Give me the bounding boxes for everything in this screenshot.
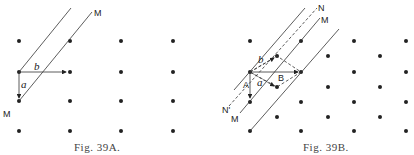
lattice-point	[17, 129, 21, 133]
lattice-points-39b	[248, 39, 408, 133]
lattice-point	[352, 100, 356, 104]
label-b: b	[34, 60, 40, 72]
lattice-point	[326, 54, 330, 58]
lattice-point	[171, 70, 175, 74]
line-n	[229, 8, 317, 106]
figure-39a: b a M M Fig. 39A.	[3, 8, 175, 153]
line-m	[240, 18, 320, 113]
lattice-point	[275, 85, 279, 89]
lattice-point	[171, 129, 175, 133]
lattice-point	[326, 85, 330, 89]
lattice-point	[119, 129, 123, 133]
label-a: a	[257, 76, 263, 88]
line-m-upper	[19, 8, 71, 72]
lattice-point	[352, 39, 356, 43]
figure-39b: b a A B N M N' M Fig. 39B.	[222, 3, 408, 153]
lattice-point	[299, 129, 303, 133]
lattice-point	[17, 39, 21, 43]
label-B: B	[278, 73, 284, 83]
caption-39b: Fig. 39B.	[303, 141, 349, 153]
lattice-point	[119, 39, 123, 43]
lattice-point	[352, 129, 356, 133]
label-m-top: M	[321, 15, 329, 25]
lattice-point	[378, 54, 382, 58]
label-m-bottom: M	[3, 109, 11, 119]
label-a: a	[21, 78, 27, 90]
label-n-bottom: N'	[222, 105, 230, 115]
lattice-point	[378, 85, 382, 89]
label-b: b	[258, 53, 264, 65]
caption-39a: Fig. 39A.	[74, 141, 120, 153]
lattice-point	[404, 70, 408, 74]
lattice-point	[171, 39, 175, 43]
lattice-point	[404, 39, 408, 43]
lattice-point	[68, 129, 72, 133]
lattice-point	[299, 100, 303, 104]
lattice-point	[326, 115, 330, 119]
label-m-top: M	[94, 8, 102, 18]
lattice-point	[119, 70, 123, 74]
line-m-lower	[19, 12, 92, 101]
lattice-point	[68, 70, 72, 74]
label-n-top: N	[318, 3, 325, 13]
diagram-canvas: b a M M Fig. 39A. b a A B N M N' M Fig. …	[0, 0, 414, 155]
label-A: A	[243, 80, 249, 90]
lattice-point	[378, 115, 382, 119]
lattice-point	[352, 70, 356, 74]
lattice-point	[248, 39, 252, 43]
lattice-points-39a	[17, 39, 175, 133]
lattice-point	[119, 99, 123, 103]
lattice-point	[68, 99, 72, 103]
lattice-point	[171, 99, 175, 103]
label-m-bottom: M	[231, 114, 239, 124]
lattice-point	[404, 100, 408, 104]
lattice-point	[404, 129, 408, 133]
lattice-point	[275, 115, 279, 119]
